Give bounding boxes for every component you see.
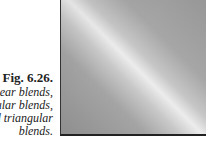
figure-caption: Fig. 6.26. near blends, angular blends, …: [0, 70, 53, 138]
caption-line: blends.: [0, 125, 53, 138]
figure-label: Fig. 6.26.: [0, 70, 53, 85]
gradient-blend-figure: [60, 0, 206, 136]
